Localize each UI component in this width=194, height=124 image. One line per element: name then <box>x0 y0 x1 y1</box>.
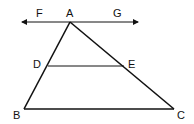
label-b: B <box>13 110 20 121</box>
label-f: F <box>36 8 43 19</box>
label-g: G <box>113 8 122 19</box>
geometry-diagram: F A G D E B C <box>0 0 194 124</box>
label-d: D <box>33 59 41 70</box>
label-a: A <box>66 8 73 19</box>
label-c: C <box>177 110 185 121</box>
triangle-figure <box>0 0 194 124</box>
label-e: E <box>128 59 135 70</box>
